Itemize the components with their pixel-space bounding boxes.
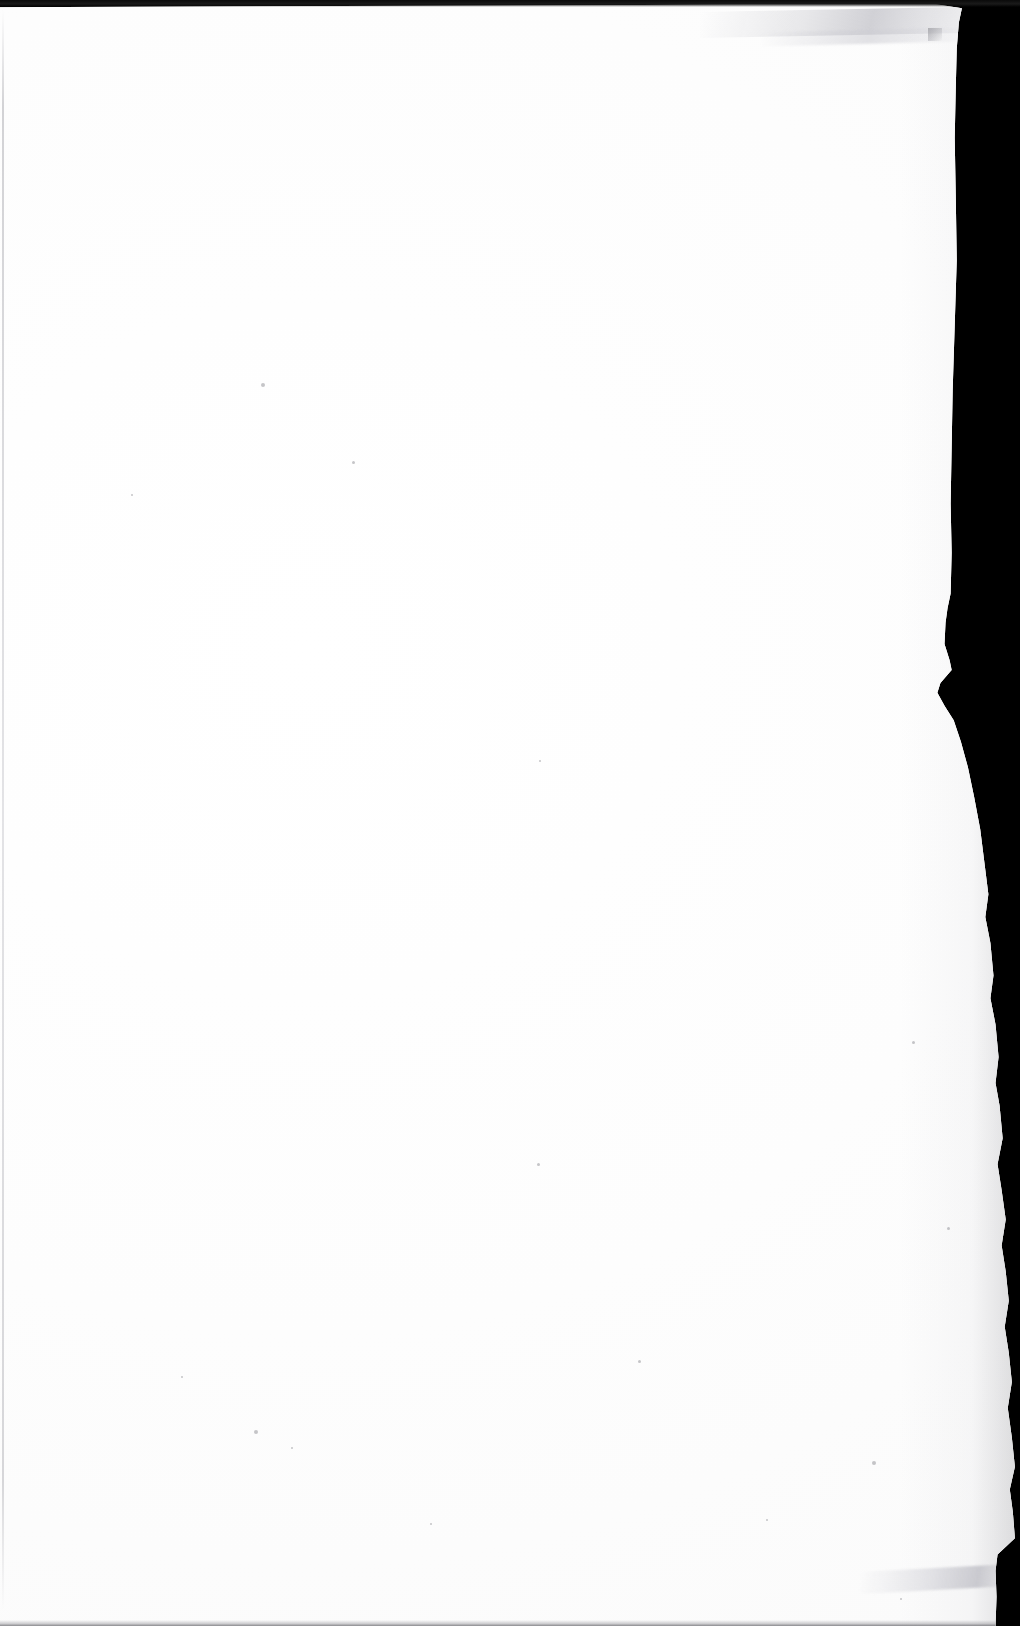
page-surface-tone [0,0,1020,1626]
dust-speck [181,1376,183,1378]
dust-speck [766,1519,768,1521]
bottom-edge-shadow [0,1620,1020,1626]
dust-speck [900,1598,902,1600]
dust-speck [872,1461,876,1465]
scanned-document-page [0,0,1020,1626]
paper-sheet [0,0,1020,1626]
dust-speck [430,1523,432,1525]
dust-speck [291,1447,293,1449]
bottom-right-fold [860,1564,1011,1594]
dust-speck [261,383,265,387]
dust-speck [131,494,133,496]
top-dark-strip [0,0,1020,7]
dust-speck [254,1430,258,1434]
dust-speck [352,461,355,464]
dust-speck [537,1163,540,1166]
dust-speck [947,1227,950,1230]
dust-speck [539,760,541,762]
left-edge-scan-line [2,10,4,1610]
dust-speck [638,1360,641,1363]
dust-speck [912,1041,915,1044]
top-right-corner-mark [928,28,942,41]
